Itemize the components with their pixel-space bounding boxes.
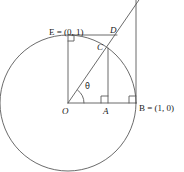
point-label-D: D bbox=[110, 26, 117, 35]
figure-canvas bbox=[0, 0, 184, 172]
point-label-B: B = (1, 0) bbox=[139, 104, 174, 113]
angle-arc-theta bbox=[78, 90, 84, 103]
angle-label-theta: θ bbox=[85, 83, 90, 91]
right-angle-mark-B bbox=[129, 96, 136, 103]
unit-circle-figure: E = (0, 1) D C O A B = (1, 0) θ bbox=[0, 0, 184, 172]
point-label-A: A bbox=[103, 107, 109, 116]
ray-O-theta bbox=[68, 0, 141, 103]
point-label-C: C bbox=[97, 43, 103, 52]
point-label-O: O bbox=[62, 107, 69, 116]
right-angle-mark-A bbox=[101, 96, 108, 103]
point-label-E: E = (0, 1) bbox=[49, 28, 84, 37]
